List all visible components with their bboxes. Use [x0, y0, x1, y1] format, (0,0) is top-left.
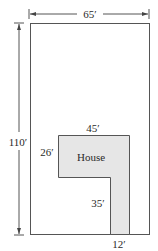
lot-height-label: 110′ — [9, 136, 28, 148]
house-depth-label: 26′ — [40, 146, 53, 158]
house-width-label: 45′ — [86, 122, 99, 134]
house-label: House — [77, 151, 105, 163]
lot-width-dimension: 65′ — [29, 8, 149, 20]
house-leg-width-label: 12′ — [112, 238, 125, 250]
arrow-up-icon — [17, 24, 21, 30]
arrow-right-icon — [142, 12, 148, 16]
lot-width-label: 65′ — [83, 8, 96, 20]
lot-height-dimension: 110′ — [9, 23, 28, 235]
lot-diagram: 65′ 110′ 45′ 26′ House 35′ 12′ — [0, 0, 158, 251]
arrow-left-icon — [30, 12, 36, 16]
arrow-down-icon — [17, 228, 21, 234]
house-leg-length-label: 35′ — [91, 197, 104, 209]
